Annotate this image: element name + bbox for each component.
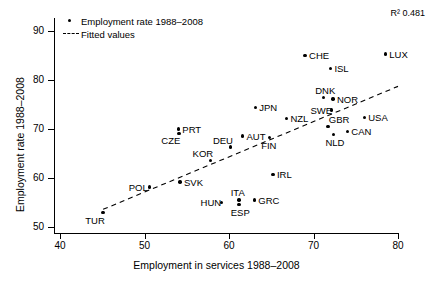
data-point-label-grc: GRC [258, 196, 279, 206]
data-point-ita [237, 198, 240, 201]
legend-label-points: Employment rate 1988–2008 [81, 15, 203, 28]
data-point-label-fin: FIN [261, 141, 276, 151]
data-point-deu [229, 145, 232, 148]
data-point-fin [268, 136, 271, 139]
data-point-can [346, 130, 349, 133]
legend-label-fitted: Fitted values [81, 28, 135, 41]
data-point-label-cze: CZE [161, 136, 180, 146]
y-axis-tick [48, 129, 54, 130]
data-point-label-lux: LUX [389, 50, 407, 60]
data-point-usa [363, 116, 366, 119]
data-point-pol [148, 185, 151, 188]
data-point-grc [253, 198, 256, 201]
x-axis-tick-label: 70 [299, 241, 329, 251]
x-axis-tick-label: 80 [383, 241, 413, 251]
data-point-aut [241, 134, 244, 137]
data-point-label-nzl: NZL [290, 114, 308, 124]
data-point-nzl [285, 117, 288, 120]
data-point-svk [178, 180, 181, 183]
data-point-irl [271, 173, 274, 176]
data-point-label-pol: POL [129, 183, 148, 193]
data-point-label-irl: IRL [277, 170, 292, 180]
data-point-label-usa: USA [368, 113, 388, 123]
data-point-label-kor: KOR [193, 149, 214, 159]
data-point-isl [329, 67, 332, 70]
r-squared-annotation: R² 0.481 [390, 8, 425, 18]
data-point-esp [237, 203, 240, 206]
y-axis-tick-label: 50 [16, 222, 44, 232]
data-point-label-isl: ISL [334, 64, 348, 74]
y-axis-tick-label: 90 [16, 26, 44, 36]
data-point-label-che: CHE [309, 51, 329, 61]
y-axis-tick [48, 227, 54, 228]
data-point-label-esp: ESP [231, 208, 250, 218]
data-point-label-ita: ITA [231, 188, 245, 198]
x-axis-tick-label: 60 [214, 241, 244, 251]
scatter-chart-figure: 50607080904050607080 TURPOLSVKPRTCZEKORH… [0, 0, 433, 282]
data-point-label-can: CAN [351, 127, 371, 137]
data-point-nor [331, 97, 334, 100]
data-point-kor [209, 159, 212, 162]
data-point-label-tur: TUR [85, 216, 105, 226]
data-point-lux [384, 52, 387, 55]
fitted-values-line [54, 18, 398, 233]
y-axis-line [54, 18, 55, 233]
y-axis-tick [48, 31, 54, 32]
data-point-label-jpn: JPN [259, 103, 277, 113]
x-axis-tick-label: 40 [45, 241, 75, 251]
data-point-che [303, 54, 306, 57]
x-axis-tick [145, 233, 146, 239]
data-point-dnk [322, 96, 325, 99]
x-axis-title: Employment in services 1988–2008 [0, 259, 433, 271]
y-axis-tick [48, 80, 54, 81]
legend-dot-icon [68, 19, 71, 22]
y-axis-title: Employment rate 1988–2008 [14, 77, 26, 212]
legend-dashed-line-icon [63, 33, 79, 34]
data-point-label-prt: PRT [182, 125, 201, 135]
data-point-jpn [254, 106, 257, 109]
y-axis-tick [48, 178, 54, 179]
x-axis-tick [398, 233, 399, 239]
data-point-label-deu: DEU [213, 136, 233, 146]
x-axis-tick [229, 233, 230, 239]
data-point-prt [177, 127, 180, 130]
data-point-tur [101, 211, 104, 214]
data-point-label-dnk: DNK [315, 86, 335, 96]
data-point-label-nor: NOR [337, 95, 358, 105]
x-axis-tick [60, 233, 61, 239]
data-point-label-hun: HUN [201, 198, 222, 208]
data-point-label-svk: SVK [184, 178, 203, 188]
data-point-label-nld: NLD [325, 138, 344, 148]
data-point-nld [332, 133, 335, 136]
data-point-label-gbr: GBR [329, 115, 350, 125]
x-axis-line [54, 233, 398, 234]
data-point-gbr [326, 125, 329, 128]
x-axis-tick [314, 233, 315, 239]
x-axis-tick-label: 50 [130, 241, 160, 251]
